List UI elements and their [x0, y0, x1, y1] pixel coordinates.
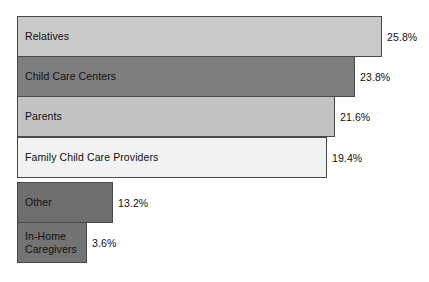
bar-family-child-care-providers: Family Child Care Providers — [17, 137, 327, 178]
bar-label: Other — [18, 196, 52, 208]
bar-in-home-caregivers: In-Home Caregivers — [17, 222, 87, 263]
bar-row: Relatives 25.8% — [17, 16, 412, 57]
bar-value-label: 23.8% — [360, 71, 390, 83]
bar-parents: Parents — [17, 96, 335, 137]
bar-label: Child Care Centers — [18, 70, 116, 82]
bar-relatives: Relatives — [17, 16, 382, 57]
bar-value-label: 3.6% — [92, 237, 116, 249]
bar-row: In-Home Caregivers 3.6% — [17, 222, 412, 263]
bar-value-label: 21.6% — [340, 111, 370, 123]
bar-label: Relatives — [18, 30, 69, 42]
bar-chart-figure: Relatives 25.8% Child Care Centers 23.8%… — [0, 0, 429, 282]
bar-row: Parents 21.6% — [17, 96, 412, 137]
bar-other: Other — [17, 182, 113, 223]
bar-value-label: 25.8% — [387, 31, 417, 43]
bar-row: Other 13.2% — [17, 182, 412, 223]
bar-child-care-centers: Child Care Centers — [17, 56, 355, 97]
bar-row: Child Care Centers 23.8% — [17, 56, 412, 97]
bar-label: Family Child Care Providers — [18, 151, 158, 163]
plot-area: Relatives 25.8% Child Care Centers 23.8%… — [17, 16, 412, 263]
bar-row: Family Child Care Providers 19.4% — [17, 137, 412, 178]
bar-value-label: 19.4% — [332, 152, 362, 164]
bar-value-label: 13.2% — [118, 197, 148, 209]
bar-label: Parents — [18, 110, 62, 122]
bar-label: In-Home Caregivers — [18, 230, 77, 255]
